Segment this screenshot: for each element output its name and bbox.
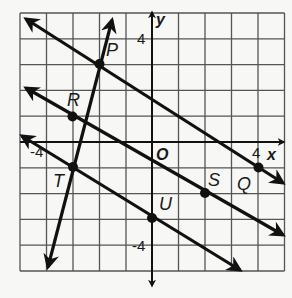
x-axis-label: x — [266, 146, 277, 163]
label-T: T — [53, 171, 66, 191]
line-PQ — [26, 19, 283, 183]
label-U: U — [159, 194, 173, 214]
origin-label: O — [156, 146, 169, 163]
point-T — [68, 162, 78, 172]
line-TU — [22, 136, 240, 270]
tick-y-4: 4 — [137, 30, 145, 47]
point-Q — [254, 163, 264, 173]
line-PT — [48, 20, 112, 267]
coordinate-graph: P R T U S Q y x O 4 -4 4 -4 — [0, 0, 292, 298]
point-P — [95, 59, 105, 69]
label-S: S — [208, 170, 220, 190]
point-U — [147, 213, 157, 223]
y-axis-label: y — [155, 11, 166, 28]
tick-y-neg4: -4 — [132, 237, 145, 254]
graph-canvas: P R T U S Q y x O 4 -4 4 -4 — [0, 0, 292, 298]
label-P: P — [106, 40, 118, 60]
tick-x-4: 4 — [252, 144, 260, 161]
point-R — [68, 112, 78, 122]
label-Q: Q — [237, 174, 251, 194]
tick-x-neg4: -4 — [30, 143, 43, 160]
label-R: R — [67, 90, 80, 110]
